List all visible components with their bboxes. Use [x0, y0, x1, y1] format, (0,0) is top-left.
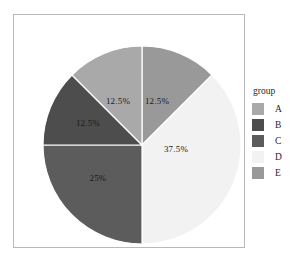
legend-swatch-c — [252, 135, 264, 147]
slice-percent-label-c: 25% — [89, 173, 106, 183]
slice-percent-label-d: 37.5% — [164, 144, 188, 154]
legend-label-b: B — [275, 119, 281, 131]
slice-percent-label-a: 12.5% — [106, 96, 130, 106]
legend-title: group — [253, 86, 298, 97]
legend-label-d: D — [275, 151, 282, 163]
legend-entries: ABCDE — [252, 101, 298, 180]
pie-chart: 12.5%37.5%25%12.5%12.5% — [14, 15, 246, 249]
plot-panel: 12.5%37.5%25%12.5%12.5% — [13, 14, 245, 248]
chart-figure: 12.5%37.5%25%12.5%12.5% group ABCDE — [0, 0, 300, 263]
slice-percent-label-b: 12.5% — [76, 118, 100, 128]
legend-swatch-b — [252, 119, 264, 131]
legend-label-e: E — [275, 167, 281, 179]
pie-svg — [14, 15, 246, 249]
legend-item-e[interactable]: E — [252, 165, 298, 180]
legend-swatch-a — [252, 103, 264, 115]
legend-label-a: A — [275, 103, 282, 115]
legend-item-b[interactable]: B — [252, 117, 298, 132]
legend-swatch-e — [252, 167, 264, 179]
legend-item-c[interactable]: C — [252, 133, 298, 148]
legend: group ABCDE — [252, 86, 298, 181]
legend-label-c: C — [275, 135, 281, 147]
legend-swatch-d — [252, 151, 264, 163]
pie-slice-c[interactable] — [43, 145, 142, 244]
legend-item-a[interactable]: A — [252, 101, 298, 116]
legend-item-d[interactable]: D — [252, 149, 298, 164]
slice-percent-label-e: 12.5% — [145, 96, 169, 106]
